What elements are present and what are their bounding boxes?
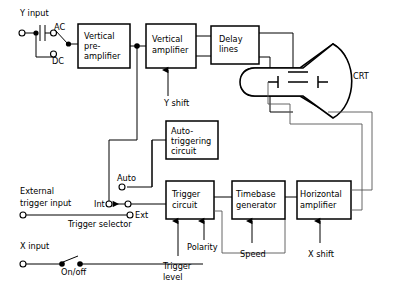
int-terminal-contact[interactable] <box>106 201 112 207</box>
x-shift-control[interactable]: X shift <box>308 221 335 259</box>
speed-control[interactable]: Speed <box>240 221 266 259</box>
trigger-selector-group: External trigger input Auto Int Ext Trig… <box>20 173 166 229</box>
on-off-label: On/off <box>61 267 86 277</box>
block-timebase-generator[interactable]: Timebase generator <box>232 181 285 219</box>
polarity-label: Polarity <box>187 242 218 252</box>
trigger-circuit-label-line1: Trigger <box>171 189 201 199</box>
y-input-label: Y input <box>19 8 49 18</box>
block-horizontal-amplifier[interactable]: Horizontal amplifier <box>297 181 351 219</box>
vertical-preamplifier-label-line2: pre- <box>84 41 100 51</box>
on-off-switch-blade[interactable] <box>63 256 78 262</box>
x-input-label: X input <box>20 241 50 251</box>
horizontal-amplifier-label-line1: Horizontal <box>300 189 342 199</box>
speed-label: Speed <box>240 249 266 259</box>
block-delay-lines[interactable]: Delay lines <box>211 26 259 64</box>
x-input-terminal[interactable] <box>20 261 26 267</box>
block-vertical-preamplifier[interactable]: Vertical pre- amplifier <box>78 24 130 68</box>
polarity-control[interactable]: Polarity <box>187 221 218 252</box>
auto-terminal-label: Auto <box>117 173 136 183</box>
block-trigger-circuit[interactable]: Trigger circuit <box>166 181 214 219</box>
trigger-level-label-line1: Trigger <box>162 261 192 271</box>
dc-label: DC <box>52 56 64 66</box>
delay-to-crt-upper-plate-wire <box>259 33 293 68</box>
external-trigger-input-label-line2: trigger input <box>20 198 72 208</box>
vertical-amplifier-label-line1: Vertical <box>152 34 183 44</box>
y-shift-control[interactable]: Y shift <box>163 70 190 108</box>
horizontal-amplifier-label-line2: amplifier <box>300 200 337 210</box>
oscilloscope-block-diagram: Y input AC DC <box>0 0 395 293</box>
y-shift-label: Y shift <box>163 98 190 108</box>
crt-label: CRT <box>353 71 370 81</box>
external-trigger-terminal[interactable] <box>20 212 26 218</box>
trigger-selector-label: Trigger selector <box>67 219 132 229</box>
y-input-group: Y input AC DC <box>19 8 78 66</box>
block-auto-triggering-circuit[interactable]: Auto- triggering circuit <box>166 121 218 159</box>
auto-triggering-label-line1: Auto- <box>171 126 193 136</box>
vertical-preamplifier-label-line3: amplifier <box>84 51 121 61</box>
trigger-level-label-line2: level <box>163 272 182 282</box>
auto-trigger-feed-wire <box>148 140 166 187</box>
ac-dc-switch-blade[interactable] <box>55 30 68 44</box>
int-terminal-label: Int <box>94 199 106 209</box>
trigger-selector-pivot[interactable] <box>125 201 131 207</box>
delay-lines-label-line2: lines <box>219 44 238 54</box>
trigger-circuit-label-line2: circuit <box>172 200 198 210</box>
timebase-generator-label-line2: generator <box>236 200 277 210</box>
x-shift-label: X shift <box>308 249 335 259</box>
timebase-generator-label-line1: Timebase <box>235 189 276 199</box>
auto-triggering-label-line2: triggering <box>171 136 211 146</box>
auto-triggering-label-line3: circuit <box>171 146 197 156</box>
delay-lines-label-line1: Delay <box>219 34 243 44</box>
y-input-terminal[interactable] <box>19 30 25 36</box>
block-vertical-amplifier[interactable]: Vertical amplifier <box>146 24 196 68</box>
vertical-preamplifier-label-line1: Vertical <box>84 31 115 41</box>
vertical-amplifier-label-line2: amplifier <box>152 45 189 55</box>
ext-terminal-contact[interactable] <box>127 212 133 218</box>
ext-terminal-label: Ext <box>135 210 149 220</box>
external-trigger-input-label-line1: External <box>20 186 54 196</box>
auto-terminal-contact[interactable] <box>119 184 125 190</box>
diagram-canvas: Y input AC DC <box>0 0 395 293</box>
